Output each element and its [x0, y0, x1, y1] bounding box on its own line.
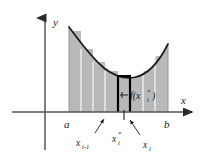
rectangle-8 [155, 56, 168, 112]
function-value-suffix: ) [151, 90, 156, 102]
function-value-subscript: i [147, 96, 149, 103]
function-value-prefix: f(x [130, 90, 141, 102]
function-value-star: * [147, 88, 151, 96]
partition-x-right-subscript: i [149, 145, 151, 152]
partition-x-left-base: x [75, 138, 81, 148]
rectangle-5-highlighted [118, 76, 130, 112]
upper-bound-label: b [164, 118, 170, 130]
rectangle-1 [69, 31, 81, 112]
partition-x-sample-subscript: i [118, 139, 120, 146]
riemann-sum-figure: y x a b x i-1 x i * x i f(x i * ) [0, 0, 204, 160]
partition-x-sample-base: x [111, 134, 117, 144]
rectangle-4 [105, 71, 118, 112]
y-axis-label: y [52, 16, 58, 28]
rectangle-2 [81, 49, 93, 112]
figure-canvas: y x a b x i-1 x i * x i f(x i * ) [0, 0, 204, 160]
partition-x-left-subscript: i-1 [82, 143, 89, 150]
x-axis-label: x [180, 94, 186, 106]
partition-x-right-base: x [142, 140, 148, 150]
partition-x-sample-star: * [118, 130, 122, 138]
rectangle-3 [93, 62, 105, 112]
lower-bound-label: a [64, 118, 70, 130]
